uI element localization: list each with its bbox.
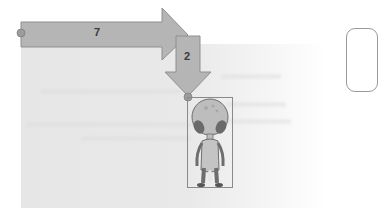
vertical-arrow-label: 2 — [184, 50, 190, 62]
horizontal-arrow-anchor-handle[interactable] — [17, 29, 25, 37]
horizontal-arrow[interactable] — [21, 8, 188, 60]
horizontal-arrow-label: 7 — [94, 26, 100, 38]
sprite-bounding-box[interactable] — [187, 97, 233, 188]
